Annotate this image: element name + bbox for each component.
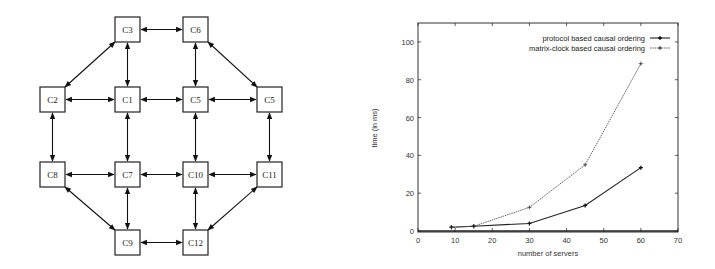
node-label: C3 [122,25,133,35]
node-c9: C9 [115,230,140,255]
legend-label: protocol based causal ordering [542,34,645,43]
node-c2: C2 [40,87,65,112]
x-tick-label: 20 [488,236,496,245]
edge-c6-c5b [208,42,257,87]
node-c1: C1 [115,87,140,112]
y-tick-label: 20 [406,189,414,198]
node-c6: C6 [183,17,208,42]
line-chart: 010203040506070 020406080100 protocol ba… [360,0,715,269]
plot-frame [418,23,678,232]
node-c10: C10 [183,162,208,187]
network-diagram: C3C6C2C1C5C5C8C7C10C11C9C12 [0,0,330,269]
data-point-marker [527,221,531,225]
x-tick-label: 30 [525,236,533,245]
edge-c8-c9 [65,187,115,230]
data-point-marker [449,225,453,229]
x-tick-label: 70 [674,236,682,245]
data-point-marker [472,224,476,228]
node-label: C5 [190,95,201,105]
x-tick-label: 0 [416,236,420,245]
node-c7: C7 [115,162,140,187]
node-label: C11 [262,170,277,180]
y-axis-ticks: 020406080100 [401,38,678,236]
series-line-0 [451,168,640,228]
x-tick-label: 60 [637,236,645,245]
y-tick-label: 80 [406,76,414,85]
y-tick-label: 60 [406,114,414,123]
node-c11: C11 [257,162,282,187]
edge-c3-c2 [65,42,115,87]
node-label: C7 [122,170,133,180]
node-label: C8 [47,170,58,180]
y-axis-label: time (in ms) [370,108,379,148]
x-tick-label: 40 [562,236,570,245]
node-c8: C8 [40,162,65,187]
node-label: C6 [190,25,201,35]
edge-c11-c12 [208,187,257,230]
y-tick-label: 100 [401,38,414,47]
node-c12: C12 [183,230,208,255]
edges-layer [53,30,270,243]
node-label: C10 [188,170,204,180]
legend: protocol based causal orderingmatrix-clo… [529,34,670,53]
node-c3: C3 [115,17,140,42]
x-tick-label: 10 [451,236,459,245]
x-axis-ticks: 010203040506070 [416,23,682,245]
node-label: C2 [47,95,58,105]
node-c5: C5 [257,87,282,112]
node-label: C9 [122,238,133,248]
legend-label: matrix-clock based causal ordering [529,44,645,53]
node-label: C1 [122,95,133,105]
y-tick-label: 0 [410,227,414,236]
series-line-1 [451,64,640,228]
node-label: C5 [264,95,275,105]
x-tick-label: 50 [600,236,608,245]
node-c5: C5 [183,87,208,112]
node-label: C12 [188,238,203,248]
nodes-layer: C3C6C2C1C5C5C8C7C10C11C9C12 [40,17,282,255]
y-tick-label: 40 [406,151,414,160]
data-point-marker [583,163,587,167]
series-layer [449,62,642,230]
x-axis-label: number of servers [518,249,579,258]
data-point-marker [639,62,643,66]
